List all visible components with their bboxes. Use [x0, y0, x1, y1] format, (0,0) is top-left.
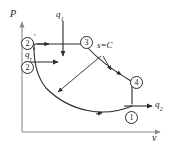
process-3-to-4-isentropic [86, 46, 131, 81]
q2-label-sub: 2 [160, 106, 163, 112]
q1-label-sub: 1 [61, 16, 64, 22]
q1-label: q1 [56, 10, 64, 21]
x-axis-label: v [152, 133, 156, 143]
state-point-3: 3 [80, 36, 93, 49]
sc-leader-to-lower-isentrope [58, 56, 101, 92]
state-point-1: 1 [125, 111, 138, 124]
y-axis-label: P [10, 9, 16, 19]
qr-label: qr [25, 50, 32, 61]
cycle-path-group [34, 44, 132, 112]
state-point-2-prime-mark: ' [34, 33, 35, 42]
qr-label-base: q [25, 49, 30, 59]
flow-arrow-3-to-4 [116, 72, 120, 75]
state-point-2: 2 [21, 61, 34, 74]
flow-direction-markers [96, 72, 120, 115]
q2-label: q2 [155, 100, 163, 111]
q1-label-base: q [56, 9, 61, 19]
isentropic-process-label: s=C [97, 41, 113, 50]
pv-diagram: P v q1 qr q2 s=C 2 ' 2 3 4 1 [0, 0, 181, 154]
q2-label-base: q [155, 99, 160, 109]
state-point-2-prime: 2 [21, 37, 34, 50]
process-1-to-2-isentropic [34, 48, 132, 112]
state-point-4: 4 [130, 76, 143, 89]
pv-diagram-canvas [0, 0, 181, 154]
flow-arrow-1-to-2 [96, 113, 101, 114]
